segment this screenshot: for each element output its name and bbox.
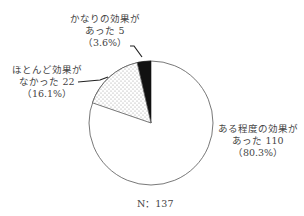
label-aru-line1: ある程度の効果が [218,123,298,135]
label-kanari-line2: あった 5 [70,25,140,37]
label-aru-line2: あった 110 [218,135,298,147]
label-kanari-line1: かなりの効果が [70,13,140,25]
label-hotondo-line2: なかった 22 [12,76,82,88]
label-kanari: かなりの効果が あった 5 （3.6%） [70,13,140,49]
label-hotondo-line3: （16.1%） [12,88,82,100]
leader-hotondo [78,77,108,82]
pie-chart [0,0,304,216]
label-kanari-line3: （3.6%） [70,37,140,49]
label-hotondo: ほとんど効果が なかった 22 （16.1%） [12,64,82,100]
label-hotondo-line1: ほとんど効果が [12,64,82,76]
label-aru: ある程度の効果が あった 110 （80.3%） [218,123,298,159]
label-aru-line3: （80.3%） [218,147,298,159]
sample-size-label: N：137 [137,196,173,210]
